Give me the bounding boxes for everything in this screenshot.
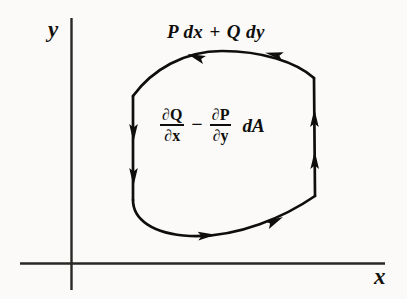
y-axis-label: y [48,18,58,41]
curve-top-arc [133,51,314,96]
double-integral-expression: ∂Q ∂x − ∂P ∂y dA [160,106,265,145]
minus-operator: − [189,114,204,134]
line-integral-expression: P dx + Q dy [167,22,265,41]
partial-x-denominator: ∂x [162,127,182,144]
line-integral-operator: + [208,21,221,42]
fraction-bar [160,124,184,126]
curve-bottom-arc [133,196,315,236]
partial-p-numerator: ∂P [210,106,232,123]
line-integral-q-term: Q dy [227,21,265,42]
line-integral-p-term: P dx [167,21,203,42]
partial-q-partial-x-fraction: ∂Q ∂x [160,106,184,145]
partial-q-numerator: ∂Q [160,106,184,123]
area-element-label: dA [236,116,264,135]
fraction-bar [210,124,232,126]
figure-canvas: y x P dx + Q dy ∂Q ∂x − ∂P ∂y dA [0,0,407,299]
partial-y-denominator: ∂y [211,127,231,144]
greens-theorem-figure [0,0,407,299]
curve-right-side [314,78,315,196]
partial-p-partial-y-fraction: ∂P ∂y [210,106,232,145]
axes [20,18,385,290]
x-axis-label: x [374,265,386,288]
